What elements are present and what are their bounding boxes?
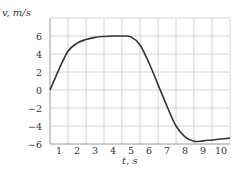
y-tick-label: 6 bbox=[36, 31, 42, 42]
y-tick-label: 4 bbox=[36, 49, 42, 60]
x-tick-label: 10 bbox=[215, 145, 227, 156]
y-tick-label: 2 bbox=[36, 67, 42, 78]
x-tick-label: 8 bbox=[182, 145, 188, 156]
velocity-time-chart: 6420−2−4−6 12345678910 v, m/s t, s bbox=[0, 0, 243, 169]
y-tick-label: 0 bbox=[36, 85, 42, 96]
y-tick-label: −4 bbox=[28, 121, 42, 132]
x-tick-label: 2 bbox=[74, 145, 80, 156]
x-tick-label: 1 bbox=[56, 145, 62, 156]
x-tick-label: 6 bbox=[146, 145, 152, 156]
x-tick-labels: 12345678910 bbox=[56, 145, 227, 156]
x-tick-label: 4 bbox=[110, 145, 116, 156]
y-tick-labels: 6420−2−4−6 bbox=[28, 31, 42, 150]
x-tick-label: 7 bbox=[164, 145, 170, 156]
grid bbox=[50, 18, 230, 144]
y-axis-label: v, m/s bbox=[2, 7, 31, 18]
x-tick-label: 3 bbox=[92, 145, 98, 156]
y-tick-label: −6 bbox=[28, 139, 42, 150]
x-tick-label: 9 bbox=[200, 145, 206, 156]
x-axis-label: t, s bbox=[122, 155, 138, 166]
y-tick-label: −2 bbox=[28, 103, 42, 114]
